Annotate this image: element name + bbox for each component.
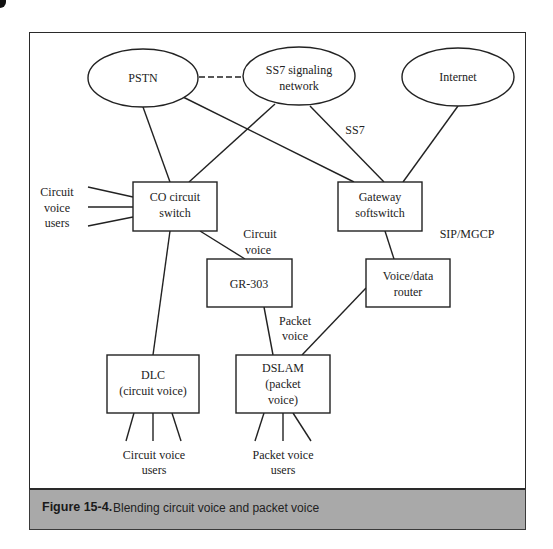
edge-internet-gateway — [403, 106, 458, 182]
internet-label: Internet — [439, 70, 477, 84]
router-label-line1: Voice/data — [383, 269, 434, 283]
figure-caption: Blending circuit voice and packet voice — [113, 501, 319, 515]
voice-data-router-box — [366, 259, 450, 307]
edge-ss7-gateway — [310, 106, 384, 182]
user-line — [126, 413, 134, 441]
router-label-line2: router — [394, 285, 423, 299]
edge-co-switch-dlc — [153, 231, 170, 355]
caption-band: Figure 15-4. Blending circuit voice and … — [29, 488, 526, 530]
circuit-voice-label-line2: voice — [245, 243, 271, 257]
packet-voice-label-line2: voice — [282, 329, 308, 343]
sip-mgcp-label: SIP/MGCP — [440, 227, 495, 241]
user-line — [293, 413, 311, 441]
ss7-label-line2: network — [279, 79, 318, 93]
dslam-label-line1: DSLAM — [262, 361, 304, 375]
gateway-label-line1: Gateway — [359, 190, 402, 204]
edge-gr303-dslam — [264, 307, 273, 355]
dslam-label-line3: voice) — [268, 393, 298, 407]
edge-pstn-co-switch — [143, 107, 170, 182]
edge-co-switch-gr303 — [200, 231, 245, 259]
dlc-label-line1: DLC — [141, 368, 165, 382]
ss7-label-line1: SS7 signaling — [266, 63, 332, 77]
packet-users-bottom-line1: Packet voice — [253, 448, 314, 462]
figure-canvas: PSTN SS7 signaling network Internet CO c… — [0, 0, 553, 549]
packet-voice-label-line1: Packet — [279, 314, 312, 328]
figure-number: Figure 15-4. — [42, 500, 112, 514]
gr303-label: GR-303 — [230, 277, 269, 291]
packet-users-bottom-line2: users — [271, 463, 296, 477]
circuit-voice-label-line1: Circuit — [243, 227, 277, 241]
edge-router-dslam — [302, 288, 366, 355]
dlc-label-line2: (circuit voice) — [119, 384, 187, 398]
user-line — [88, 187, 133, 197]
circuit-users-bottom-line2: users — [142, 463, 167, 477]
dslam-label-line2: (packet — [265, 377, 301, 391]
co-switch-label-line1: CO circuit — [150, 190, 201, 204]
user-line — [255, 413, 264, 441]
circuit-users-left-line2: voice — [44, 201, 70, 215]
ss7-link-label: SS7 — [345, 123, 364, 137]
circuit-users-left-line3: users — [45, 216, 70, 230]
circuit-users-left-line1: Circuit — [40, 185, 74, 199]
user-line — [88, 217, 133, 226]
pstn-label: PSTN — [128, 71, 158, 85]
edge-ss7-co-switch — [189, 104, 275, 182]
circuit-users-bottom-line1: Circuit voice — [123, 448, 185, 462]
gateway-label-line2: softswitch — [355, 206, 404, 220]
edge-gateway-router — [385, 231, 394, 259]
co-switch-label-line2: switch — [159, 206, 190, 220]
network-diagram: PSTN SS7 signaling network Internet CO c… — [0, 0, 553, 549]
user-line — [172, 413, 181, 441]
